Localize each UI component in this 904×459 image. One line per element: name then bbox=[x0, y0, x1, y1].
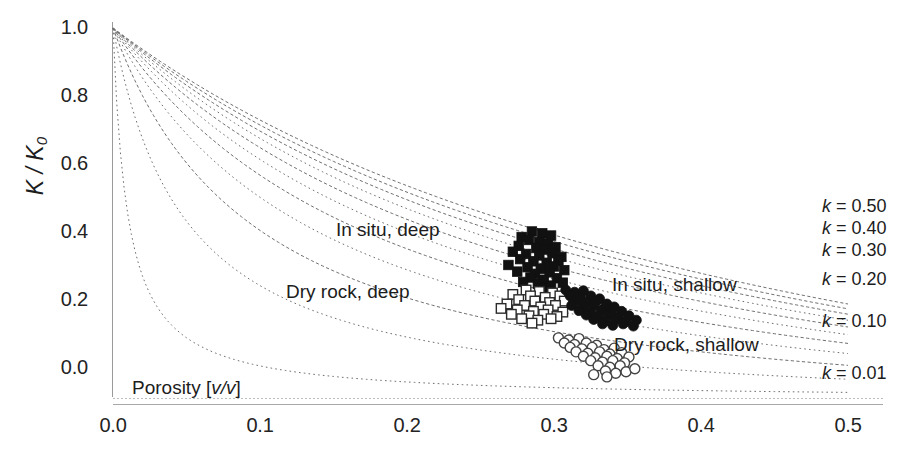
k-curve-0-05 bbox=[113, 28, 848, 379]
annotation-dry-rock-shallow: Dry rock, shallow bbox=[614, 334, 759, 356]
data-point bbox=[630, 364, 640, 374]
k-curve-0-15 bbox=[113, 28, 848, 354]
data-point bbox=[618, 319, 628, 329]
annotation-in-situ-shallow: In situ, shallow bbox=[612, 274, 737, 296]
k-curve-0-1 bbox=[113, 28, 848, 365]
legend-label-k-020: k = 0.20 bbox=[822, 269, 887, 290]
data-point bbox=[507, 310, 517, 320]
legend-label-k-001: k = 0.01 bbox=[822, 363, 887, 384]
data-point bbox=[537, 229, 547, 239]
figure-canvas: K / K0 1.0 0.8 0.6 0.4 0.2 0.0 Porosity … bbox=[0, 0, 904, 459]
scatter-dry-rock-deep bbox=[496, 285, 569, 328]
k-curve-0-35 bbox=[113, 28, 848, 320]
legend-label-k-030: k = 0.30 bbox=[822, 240, 887, 261]
data-point bbox=[496, 304, 506, 314]
data-point bbox=[527, 318, 537, 328]
data-point bbox=[504, 260, 514, 270]
data-point bbox=[608, 320, 618, 330]
k-curve-0-3 bbox=[113, 28, 848, 327]
k-curve-0-2 bbox=[113, 28, 848, 343]
data-point bbox=[513, 267, 523, 277]
annotation-dry-rock-deep: Dry rock, deep bbox=[286, 281, 410, 303]
data-point bbox=[598, 319, 608, 329]
k-curve-0-45 bbox=[113, 28, 848, 309]
k-curve-0-5 bbox=[113, 28, 848, 304]
legend-label-k-010: k = 0.10 bbox=[822, 311, 887, 332]
data-point bbox=[589, 370, 599, 380]
k-curve-0-25 bbox=[113, 28, 848, 335]
k-curve-0-4 bbox=[113, 28, 848, 314]
annotation-in-situ-deep: In situ, deep bbox=[336, 219, 440, 241]
legend-label-k-040: k = 0.40 bbox=[822, 218, 887, 239]
data-point bbox=[602, 372, 612, 382]
figure-caption-sliver bbox=[6, 444, 566, 457]
legend-label-k-050: k = 0.50 bbox=[822, 196, 887, 217]
data-point bbox=[546, 314, 556, 324]
data-point bbox=[628, 321, 638, 331]
plot-area bbox=[0, 0, 904, 459]
scatter-group bbox=[496, 227, 641, 382]
data-point bbox=[517, 314, 527, 324]
